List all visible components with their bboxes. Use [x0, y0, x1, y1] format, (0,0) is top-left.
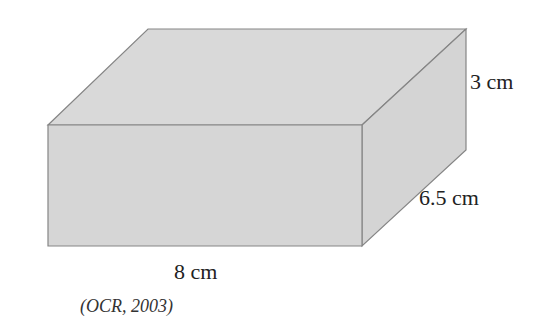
cuboid-figure [0, 0, 554, 324]
length-label: 8 cm [174, 259, 217, 285]
width-label: 6.5 cm [419, 185, 479, 211]
source-caption: (OCR, 2003) [80, 296, 173, 317]
height-label: 3 cm [470, 69, 513, 95]
front-face [48, 125, 362, 246]
